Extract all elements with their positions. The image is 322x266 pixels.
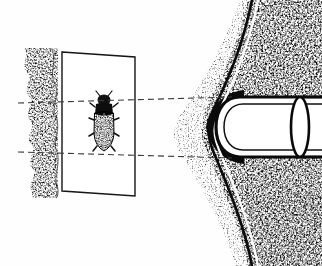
bullet-base-ellipse: [291, 97, 309, 157]
illustration-svg: [0, 0, 322, 266]
bullet-body: [216, 97, 322, 157]
tissue-hatch-upper: [252, 0, 322, 110]
figure-canvas: [0, 0, 322, 266]
